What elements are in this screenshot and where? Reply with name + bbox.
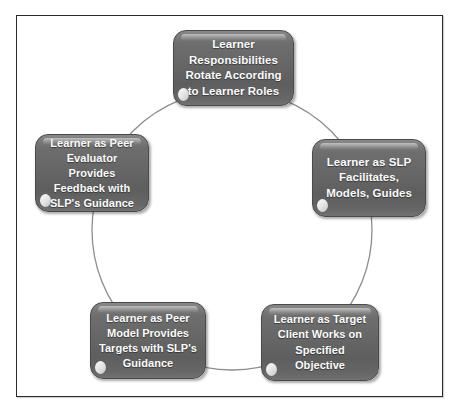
process-node-right-label: Learner as SLP Facilitates, Models, Guid…: [319, 155, 419, 202]
process-node-top[interactable]: Learner Responsibilities Rotate Accordin…: [173, 30, 294, 106]
cycle-diagram: Learner Responsibilities Rotate Accordin…: [0, 0, 458, 413]
process-node-left-label: Learner as Peer Evaluator Provides Feedb…: [36, 136, 148, 211]
process-node-bottom-left-label: Learner as Peer Model Provides Targets w…: [92, 311, 204, 371]
process-node-bottom-left[interactable]: Learner as Peer Model Provides Targets w…: [90, 302, 206, 379]
process-node-left[interactable]: Learner as Peer Evaluator Provides Feedb…: [35, 134, 149, 212]
process-node-bottom-right-label: Learner as Target Client Works on Specif…: [262, 312, 378, 374]
process-node-bottom-right[interactable]: Learner as Target Client Works on Specif…: [261, 304, 379, 381]
process-node-right[interactable]: Learner as SLP Facilitates, Models, Guid…: [312, 139, 426, 217]
process-node-top-label: Learner Responsibilities Rotate Accordin…: [178, 37, 288, 99]
